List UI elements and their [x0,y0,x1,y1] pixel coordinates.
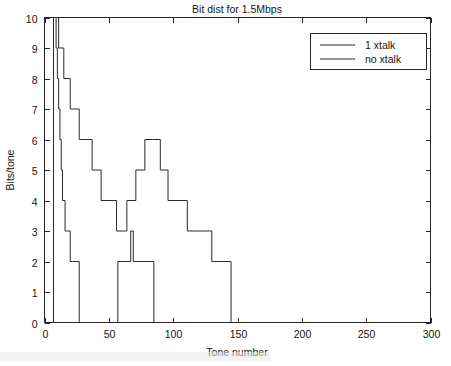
y-tick-label-5: 5 [32,165,38,177]
x-tick-label-300: 300 [423,328,441,340]
x-tick-label-150: 150 [230,328,248,340]
bit-distribution-chart: 050100150200250300 012345678910 Bit dist… [0,0,451,366]
figure-canvas: 050100150200250300 012345678910 Bit dist… [0,0,451,366]
y-axis-title: Bits/tone [4,149,16,190]
x-axis-title: Tone number [206,346,268,358]
x-tick-label-100: 100 [165,328,183,340]
x-tick-label-0: 0 [43,328,49,340]
y-tick-label-4: 4 [32,196,38,208]
y-axis-tick-labels: 012345678910 [26,13,38,330]
data-series-group [52,18,231,323]
legend-label-no-xtalk: no xtalk [365,53,402,65]
y-tick-label-10: 10 [26,13,38,25]
x-tick-label-50: 50 [104,328,116,340]
y-tick-label-6: 6 [32,135,38,147]
legend[interactable]: 1 xtalk no xtalk [311,34,427,70]
chart-title: Bit dist for 1.5Mbps [192,3,282,15]
y-tick-label-9: 9 [32,43,38,55]
y-tick-label-3: 3 [32,226,38,238]
y-tick-label-2: 2 [32,257,38,269]
x-tick-label-200: 200 [294,328,312,340]
legend-label-1-xtalk: 1 xtalk [365,39,396,51]
y-tick-label-1: 1 [32,287,38,299]
y-tick-label-8: 8 [32,74,38,86]
y-tick-label-0: 0 [32,318,38,330]
x-axis-tick-labels: 050100150200250300 [43,328,441,340]
y-tick-label-7: 7 [32,104,38,116]
x-tick-label-250: 250 [358,328,376,340]
